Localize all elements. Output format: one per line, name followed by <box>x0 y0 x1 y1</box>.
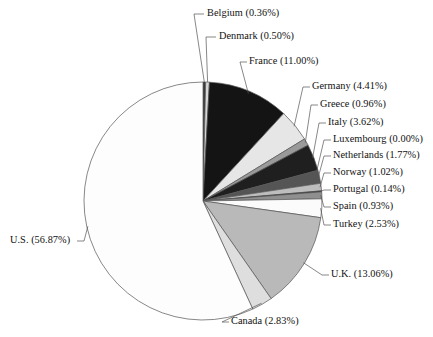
slice-label-spain: Spain (0.93%) <box>333 201 393 211</box>
slice-label-netherlands: Netherlands (1.77%) <box>333 150 420 160</box>
slice-label-portugal: Portugal (0.14%) <box>333 184 405 194</box>
slice-label-denmark: Denmark (0.50%) <box>219 31 294 41</box>
slice-label-turkey: Turkey (2.53%) <box>333 219 399 229</box>
leader-line-norway <box>320 173 331 187</box>
leader-line-belgium <box>194 14 204 82</box>
pie-chart-figure: Belgium (0.36%) Denmark (0.50%) France (… <box>0 0 433 337</box>
leader-line-luxembourg <box>317 140 331 171</box>
slice-label-us: U.S. (56.87%) <box>10 235 70 245</box>
leader-line-turkey <box>321 208 331 225</box>
leader-line-us <box>77 226 88 241</box>
leader-line-denmark <box>206 37 216 82</box>
slice-label-germany: Germany (4.41%) <box>312 81 387 91</box>
leader-line-germany <box>294 87 310 126</box>
slice-label-france: France (11.00%) <box>249 56 319 66</box>
slice-label-greece: Greece (0.96%) <box>320 99 386 109</box>
slice-label-norway: Norway (1.02%) <box>333 167 403 177</box>
leader-line-netherlands <box>318 156 331 177</box>
slice-label-belgium: Belgium (0.36%) <box>207 8 279 18</box>
leader-line-portugal <box>320 190 331 192</box>
slice-label-italy: Italy (3.62%) <box>328 117 384 127</box>
slice-label-canada: Canada (2.83%) <box>231 316 299 326</box>
pie-wedges-group <box>84 82 322 320</box>
slice-label-uk: U.K. (13.06%) <box>331 269 393 279</box>
leader-line-uk <box>303 263 329 275</box>
slice-label-luxembourg: Luxembourg (0.00%) <box>333 134 423 144</box>
